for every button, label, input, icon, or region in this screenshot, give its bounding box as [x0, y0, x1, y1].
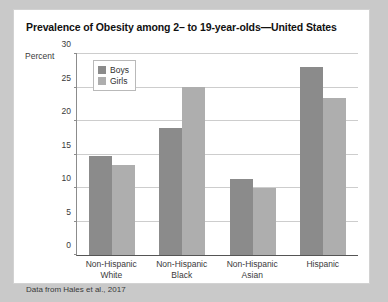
x-axis-label: Hispanic [288, 259, 359, 281]
bar-girls [112, 165, 135, 255]
legend-swatch-girls-icon [98, 77, 106, 85]
legend-swatch-boys-icon [98, 66, 106, 74]
bar-boys [300, 67, 323, 255]
bar-boys [159, 128, 182, 255]
y-axis-label: Percent [25, 51, 54, 61]
legend-label-girls: Girls [110, 76, 127, 86]
y-tick-label: 10 [62, 173, 71, 183]
source-note: Data from Hales et al., 2017 [26, 285, 126, 294]
y-tick-label: 25 [62, 73, 71, 83]
bar-group [218, 54, 288, 255]
legend-item-boys: Boys [98, 65, 129, 75]
y-tick-label: 30 [62, 39, 71, 49]
bar-group [147, 54, 217, 255]
legend-label-boys: Boys [110, 65, 129, 75]
x-axis-label: Non-HispanicBlack [147, 259, 218, 281]
x-axis-label: Non-HispanicAsian [217, 259, 288, 281]
y-tick-label: 15 [62, 140, 71, 150]
chart-screenshot: Prevalence of Obesity among 2– to 19-yea… [0, 0, 388, 302]
y-tick-label: 20 [62, 106, 71, 116]
chart-legend: Boys Girls [93, 60, 136, 91]
bar-boys [89, 156, 112, 255]
bar-girls [253, 188, 276, 255]
chart-card: Prevalence of Obesity among 2– to 19-yea… [13, 9, 370, 284]
bar-girls [323, 98, 346, 255]
plot-area: 051015202530 Boys Girls [76, 54, 358, 256]
x-axis-label: Non-HispanicWhite [76, 259, 147, 281]
bar-boys [230, 179, 253, 255]
y-tick-label: 0 [66, 240, 71, 250]
x-axis-labels: Non-HispanicWhiteNon-HispanicBlackNon-Hi… [76, 259, 358, 281]
bar-girls [182, 87, 205, 255]
bar-group [288, 54, 358, 255]
y-tick-label: 5 [66, 207, 71, 217]
legend-item-girls: Girls [98, 76, 129, 86]
chart-title: Prevalence of Obesity among 2– to 19-yea… [26, 21, 337, 33]
